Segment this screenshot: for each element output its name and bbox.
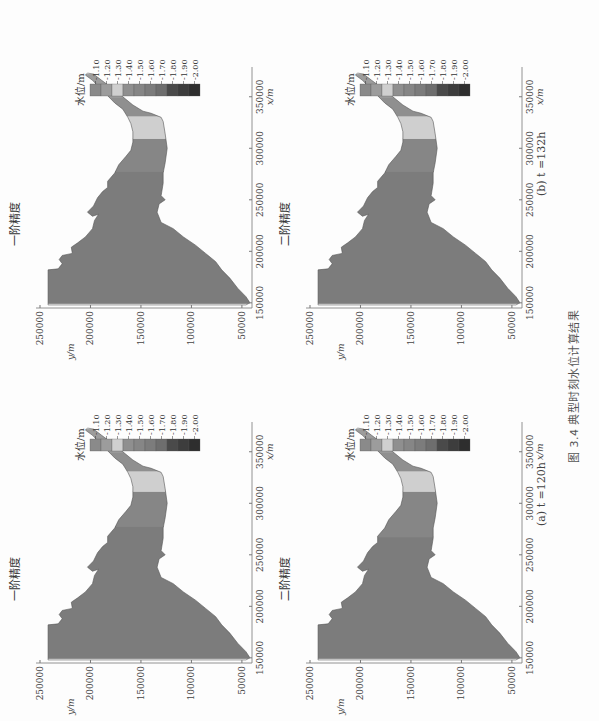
svg-text:150000: 150000 [406, 311, 416, 346]
svg-text:150000: 150000 [525, 285, 535, 320]
basin-water-level-map: 1500002000002500003000003500005000010000… [300, 391, 560, 721]
svg-text:350000: 350000 [255, 79, 265, 114]
svg-text:-1.50: -1.50 [136, 59, 145, 80]
svg-text:-1.10: -1.10 [362, 59, 371, 80]
svg-text:-1.50: -1.50 [406, 414, 415, 435]
svg-text:-1.70: -1.70 [158, 414, 167, 435]
svg-text:y/m: y/m [66, 698, 76, 716]
svg-text:-1.80: -1.80 [439, 414, 448, 435]
svg-text:100000: 100000 [186, 311, 196, 346]
basin-water-level-map: 1500002000002500003000003500005000010000… [300, 36, 560, 366]
svg-text:-1.10: -1.10 [92, 414, 101, 435]
plot-title: 二阶精度 [276, 557, 292, 601]
svg-text:-1.30: -1.30 [384, 59, 393, 80]
svg-text:y/m: y/m [336, 343, 346, 361]
svg-text:200000: 200000 [85, 666, 95, 701]
svg-text:-1.80: -1.80 [169, 59, 178, 80]
basin-water-level-map: 1500002000002500003000003500005000010000… [30, 36, 290, 366]
svg-text:-1.20: -1.20 [373, 414, 382, 435]
svg-text:-2.00: -2.00 [461, 59, 470, 80]
svg-text:-1.90: -1.90 [180, 414, 189, 435]
plot-panel-a-first-order: 1500002000002500003000003500005000010000… [30, 391, 290, 721]
svg-text:-1.70: -1.70 [158, 59, 167, 80]
subfigure-caption-b: (b) t =132h [535, 132, 548, 196]
svg-text:-1.20: -1.20 [103, 59, 112, 80]
svg-text:-1.30: -1.30 [114, 59, 123, 80]
svg-text:-1.40: -1.40 [395, 414, 404, 435]
svg-text:200000: 200000 [525, 589, 535, 624]
svg-text:y/m: y/m [336, 698, 346, 716]
svg-text:-1.70: -1.70 [428, 59, 437, 80]
svg-text:-1.40: -1.40 [395, 59, 404, 80]
svg-text:350000: 350000 [255, 434, 265, 469]
svg-text:250000: 250000 [35, 311, 45, 346]
svg-text:200000: 200000 [85, 311, 95, 346]
svg-text:水位/m: 水位/m [344, 73, 356, 106]
svg-text:-1.60: -1.60 [417, 59, 426, 80]
figure-caption: 图 3.4 典型时刻水位计算结果 [565, 310, 581, 464]
svg-text:150000: 150000 [255, 285, 265, 320]
svg-text:250000: 250000 [525, 182, 535, 217]
svg-text:水位/m: 水位/m [344, 428, 356, 461]
svg-text:-1.30: -1.30 [384, 414, 393, 435]
svg-text:250000: 250000 [525, 537, 535, 572]
svg-text:-1.80: -1.80 [169, 414, 178, 435]
svg-text:250000: 250000 [305, 666, 315, 701]
plot-panel-a-second-order: 1500002000002500003000003500005000010000… [300, 391, 560, 721]
svg-text:100000: 100000 [456, 666, 466, 701]
svg-text:50000: 50000 [237, 311, 247, 340]
svg-text:-1.50: -1.50 [406, 59, 415, 80]
svg-text:-1.80: -1.80 [439, 59, 448, 80]
svg-text:-2.00: -2.00 [461, 414, 470, 435]
svg-text:-1.60: -1.60 [147, 59, 156, 80]
svg-text:-1.50: -1.50 [136, 414, 145, 435]
plot-title: 一阶精度 [6, 557, 22, 601]
svg-text:300000: 300000 [525, 131, 535, 166]
svg-text:-1.90: -1.90 [450, 59, 459, 80]
svg-text:150000: 150000 [136, 311, 146, 346]
svg-text:50000: 50000 [237, 666, 247, 695]
plot-panel-b-second-order: 1500002000002500003000003500005000010000… [300, 36, 560, 366]
svg-text:-1.20: -1.20 [103, 414, 112, 435]
svg-text:50000: 50000 [507, 666, 517, 695]
svg-text:300000: 300000 [255, 486, 265, 521]
svg-text:50000: 50000 [507, 311, 517, 340]
svg-text:350000: 350000 [525, 79, 535, 114]
svg-text:200000: 200000 [355, 666, 365, 701]
plot-title: 二阶精度 [276, 202, 292, 246]
svg-text:x/m: x/m [265, 443, 275, 460]
svg-text:-2.00: -2.00 [191, 414, 200, 435]
svg-text:200000: 200000 [525, 234, 535, 269]
svg-text:-1.10: -1.10 [362, 414, 371, 435]
svg-text:300000: 300000 [255, 131, 265, 166]
svg-text:-1.10: -1.10 [92, 59, 101, 80]
subfigure-caption-a: (a) t =120h [535, 462, 548, 526]
svg-text:200000: 200000 [355, 311, 365, 346]
svg-text:150000: 150000 [136, 666, 146, 701]
rotated-page: 1500002000002500003000003500005000010000… [0, 0, 599, 721]
svg-text:-1.70: -1.70 [428, 414, 437, 435]
svg-text:-1.90: -1.90 [450, 414, 459, 435]
svg-text:y/m: y/m [66, 343, 76, 361]
svg-text:150000: 150000 [406, 666, 416, 701]
svg-text:-1.30: -1.30 [114, 414, 123, 435]
svg-text:150000: 150000 [525, 640, 535, 675]
svg-text:水位/m: 水位/m [74, 73, 86, 106]
svg-text:350000: 350000 [525, 434, 535, 469]
svg-text:x/m: x/m [535, 443, 545, 460]
svg-text:-1.20: -1.20 [373, 59, 382, 80]
svg-text:x/m: x/m [535, 88, 545, 105]
svg-text:-1.40: -1.40 [125, 414, 134, 435]
svg-text:250000: 250000 [255, 537, 265, 572]
svg-text:水位/m: 水位/m [74, 428, 86, 461]
svg-text:250000: 250000 [305, 311, 315, 346]
svg-text:-1.90: -1.90 [180, 59, 189, 80]
svg-text:250000: 250000 [255, 182, 265, 217]
svg-text:150000: 150000 [255, 640, 265, 675]
plot-panel-b-first-order: 1500002000002500003000003500005000010000… [30, 36, 290, 366]
svg-text:100000: 100000 [186, 666, 196, 701]
svg-text:-2.00: -2.00 [191, 59, 200, 80]
svg-text:-1.60: -1.60 [147, 414, 156, 435]
svg-text:250000: 250000 [35, 666, 45, 701]
svg-text:-1.40: -1.40 [125, 59, 134, 80]
